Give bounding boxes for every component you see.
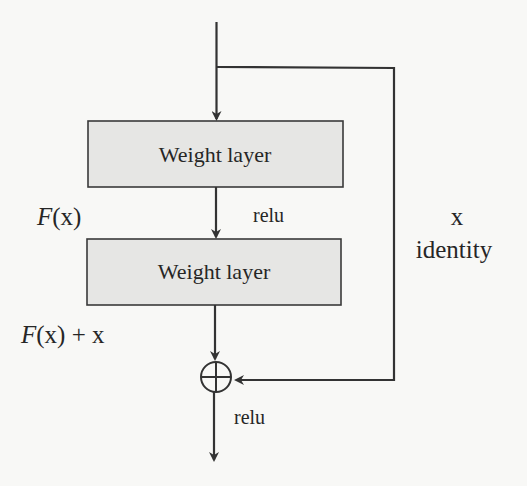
weight-layer-2-label: Weight layer [158, 259, 271, 284]
weight-layer-1-label: Weight layer [159, 142, 272, 167]
fx-label: F(x) [36, 203, 81, 231]
weight-layer-block-2: Weight layer [87, 239, 341, 305]
residual-block-diagram: Weight layer Weight layer F(x) relu x id… [0, 0, 527, 486]
skip-x-label: x [451, 203, 464, 230]
relu-mid-label: relu [253, 204, 284, 226]
weight-layer-block-1: Weight layer [88, 121, 343, 187]
fx-plus-x-label: F(x) + x [20, 321, 105, 349]
identity-label: identity [416, 236, 493, 263]
relu-out-label: relu [234, 406, 265, 428]
addition-node-icon [201, 362, 231, 392]
skip-connection-line [217, 67, 395, 380]
